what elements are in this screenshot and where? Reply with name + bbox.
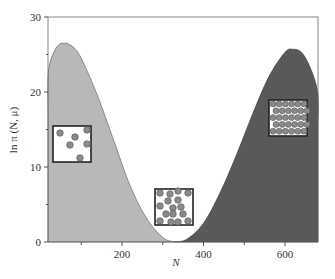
particle (84, 141, 91, 148)
particle (273, 121, 279, 127)
y-tick-label: 20 (30, 86, 42, 98)
particle (165, 198, 172, 205)
particle (301, 101, 307, 107)
particle (289, 115, 295, 121)
particle (279, 121, 285, 127)
particle (273, 108, 279, 114)
particle (163, 211, 170, 218)
particle (301, 115, 307, 121)
particle (270, 128, 276, 134)
particle (167, 191, 174, 198)
particle (77, 155, 84, 162)
right-peak-area (175, 49, 318, 242)
particle (168, 219, 175, 226)
particle (157, 218, 164, 225)
particle (298, 121, 304, 127)
particle (175, 197, 182, 204)
y-axis-label: ln π (N, μ) (7, 107, 20, 154)
particle (157, 190, 164, 197)
inset-box-2 (155, 188, 193, 226)
particle (304, 121, 310, 127)
particle (270, 101, 276, 107)
particle (175, 219, 182, 226)
particle (276, 115, 282, 121)
particle (292, 121, 298, 127)
inset-box-3 (269, 100, 310, 136)
particle (282, 101, 288, 107)
particle (282, 115, 288, 121)
particle (175, 188, 182, 195)
y-axis: 0102030 (30, 11, 48, 248)
particle (67, 142, 74, 149)
particle (276, 128, 282, 134)
particle (292, 108, 298, 114)
particle (282, 128, 288, 134)
x-tick-label: 600 (277, 248, 294, 260)
particle (289, 101, 295, 107)
y-tick-label: 30 (30, 11, 42, 23)
particle (298, 108, 304, 114)
particle (170, 205, 177, 212)
particle (57, 130, 64, 137)
inset-box-1 (53, 126, 91, 162)
particle (84, 127, 91, 134)
particle (304, 108, 310, 114)
particle (279, 108, 285, 114)
particle (157, 203, 164, 210)
particle (178, 204, 185, 211)
chart: 0102030 200400600 N ln π (N, μ) (0, 0, 335, 279)
particle (295, 128, 301, 134)
particle (180, 211, 187, 218)
particle (285, 121, 291, 127)
particle (185, 190, 192, 197)
x-tick-label: 200 (114, 248, 131, 260)
particle (285, 108, 291, 114)
x-axis: 200400600 (81, 242, 294, 260)
x-tick-label: 400 (195, 248, 212, 260)
y-tick-label: 0 (36, 236, 42, 248)
particle (185, 218, 192, 225)
particle (295, 101, 301, 107)
particle (289, 128, 295, 134)
x-axis-label: N (171, 256, 180, 268)
particle (301, 128, 307, 134)
y-tick-label: 10 (30, 161, 42, 173)
particle (276, 101, 282, 107)
particle (295, 115, 301, 121)
particle (72, 134, 79, 141)
particle (270, 115, 276, 121)
particle (170, 211, 177, 218)
